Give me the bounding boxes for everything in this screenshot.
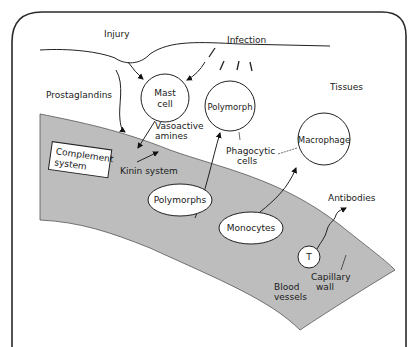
injury-arrow <box>128 62 143 79</box>
t-cell-label: T <box>305 252 312 262</box>
macrophage-label: Macrophage <box>298 135 350 145</box>
phagocytic-label: Phagocytic <box>226 146 275 156</box>
antibodies-label: Antibodies <box>328 193 376 203</box>
polymorphs-label: Polymorphs <box>154 195 207 205</box>
mast-cell-label: Mast <box>154 88 176 98</box>
infection-label: Infection <box>227 35 266 45</box>
t-cell: T <box>298 246 320 268</box>
monocytes-label: Monocytes <box>227 223 276 233</box>
polymorph-label: Polymorph <box>207 102 252 112</box>
macrophage-cell: Macrophage <box>298 113 350 165</box>
kinin-system-label: Kinin system <box>120 166 178 176</box>
polymorph-cell: Polymorph <box>205 81 255 131</box>
capillary-wall-label: Capillary <box>311 272 351 282</box>
mast-cell: Mast cell <box>141 74 189 122</box>
inflammation-diagram: Mast cell Polymorph Macrophage Complemen… <box>0 0 414 347</box>
blood-vessels-label: Blood <box>274 282 299 292</box>
phagocytic-label-2: cells <box>237 156 257 166</box>
infection-marks <box>209 48 252 71</box>
vasoactive-label-2: amines <box>155 131 188 141</box>
polymorphs-ellipse: Polymorphs <box>148 184 212 216</box>
vasoactive-label: Vasoactive <box>155 121 204 131</box>
infection-arrow <box>187 62 205 80</box>
monocytes-ellipse: Monocytes <box>219 212 283 244</box>
injury-label: Injury <box>104 29 130 39</box>
mast-cell-label-2: cell <box>157 99 173 109</box>
prostaglandins-arrow <box>116 70 125 132</box>
prostaglandins-label: Prostaglandins <box>46 90 112 100</box>
capillary-wall-label-2: wall <box>316 282 334 292</box>
blood-vessels-label-2: vessels <box>274 292 307 302</box>
phagocytic-pointer-macrophage <box>278 148 297 154</box>
phagocytic-pointer-polymorph <box>239 132 240 140</box>
tissues-label: Tissues <box>329 82 363 92</box>
tissue-surface-line <box>40 43 330 63</box>
